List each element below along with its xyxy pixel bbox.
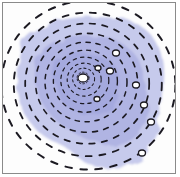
illustration-frame	[2, 2, 176, 174]
white-oval	[94, 97, 100, 102]
white-oval	[133, 82, 140, 88]
concentric-rings-illustration	[3, 3, 176, 174]
lavender-wash	[17, 17, 163, 168]
white-oval	[107, 68, 114, 74]
white-oval	[141, 102, 148, 108]
white-oval	[113, 50, 120, 56]
white-oval	[139, 150, 146, 156]
white-oval	[95, 66, 101, 71]
white-oval	[78, 74, 88, 82]
white-oval	[148, 119, 155, 125]
